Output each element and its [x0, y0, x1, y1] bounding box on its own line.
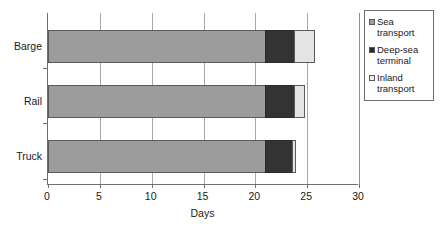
bar-segment-deep-sea-terminal-barge[interactable]: [265, 30, 296, 63]
legend-label-inland-transport: Inland transport: [377, 72, 429, 94]
category-label-barge: Barge: [0, 40, 42, 52]
bar-barge[interactable]: [48, 30, 315, 63]
bar-segment-inland-transport-rail[interactable]: [294, 85, 304, 118]
plot-frame: [47, 13, 358, 185]
x-tick-5: [100, 184, 101, 188]
bar-segment-sea-transport-rail[interactable]: [48, 85, 266, 118]
legend-item-inland-transport[interactable]: Inland transport: [369, 72, 429, 94]
y-tick-2: [43, 179, 48, 180]
deep-sea-terminal-swatch: [369, 47, 375, 53]
x-tick-label-10: 10: [136, 190, 166, 202]
category-label-truck: Truck: [0, 150, 42, 162]
bar-segment-inland-transport-truck[interactable]: [292, 140, 296, 173]
bar-segment-sea-transport-truck[interactable]: [48, 140, 266, 173]
x-tick-15: [204, 184, 205, 188]
plot-area: [48, 13, 358, 184]
x-tick-10: [152, 184, 153, 188]
x-tick-label-30: 30: [343, 190, 373, 202]
chart-screenshot: Barge Rail Truck Days Sea transport Deep…: [0, 0, 441, 229]
legend-item-sea-transport[interactable]: Sea transport: [369, 16, 429, 38]
sea-transport-swatch: [369, 19, 375, 25]
x-axis-title: Days: [47, 207, 358, 219]
legend-label-deep-sea-terminal: Deep-sea terminal: [377, 44, 429, 66]
x-tick-0: [48, 184, 49, 188]
category-label-rail: Rail: [0, 95, 42, 107]
x-tick-20: [255, 184, 256, 188]
x-tick-label-0: 0: [32, 190, 62, 202]
x-tick-label-5: 5: [84, 190, 114, 202]
bar-rail[interactable]: [48, 85, 305, 118]
bar-segment-deep-sea-terminal-truck[interactable]: [265, 140, 294, 173]
bar-segment-inland-transport-barge[interactable]: [294, 30, 315, 63]
gridline-30: [359, 13, 360, 184]
x-tick-label-15: 15: [188, 190, 218, 202]
chart-legend: Sea transport Deep-sea terminal Inland t…: [364, 10, 434, 101]
y-tick-0: [43, 68, 48, 69]
bar-truck[interactable]: [48, 140, 296, 173]
x-tick-label-25: 25: [291, 190, 321, 202]
y-tick-1: [43, 123, 48, 124]
bar-segment-sea-transport-barge[interactable]: [48, 30, 266, 63]
legend-item-deep-sea-terminal[interactable]: Deep-sea terminal: [369, 44, 429, 66]
x-tick-label-20: 20: [239, 190, 269, 202]
bar-segment-deep-sea-terminal-rail[interactable]: [265, 85, 296, 118]
x-tick-25: [307, 184, 308, 188]
x-tick-30: [359, 184, 360, 188]
legend-label-sea-transport: Sea transport: [377, 16, 429, 38]
inland-transport-swatch: [369, 75, 375, 81]
